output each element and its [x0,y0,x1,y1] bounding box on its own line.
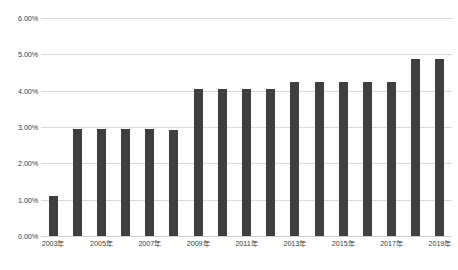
bar [363,82,372,236]
gridline-0.00% [41,236,452,237]
bar [290,82,299,236]
y-tick-label: 3.00% [0,123,38,132]
bar-series [41,18,452,236]
y-tick-label: 0.00% [0,232,38,241]
x-tick-label: 2019年 [429,238,452,248]
x-tick-label: 2011年 [235,238,257,248]
y-tick-label: 4.00% [0,86,38,95]
bar [121,129,130,236]
bar [194,89,203,236]
bar [145,129,154,236]
bar [315,82,324,236]
bar-chart: 0.00%1.00%2.00%3.00%4.00%5.00%6.00% 2003… [0,0,458,270]
x-tick-label: 2009年 [187,238,210,248]
y-tick-label: 1.00% [0,195,38,204]
x-tick-label: 2003年 [42,238,65,248]
x-tick-label: 2005年 [90,238,113,248]
bar [411,59,420,236]
bar [218,89,227,236]
x-tick-label: 2017年 [380,238,403,248]
bar [242,89,251,236]
x-tick-label: 2015年 [332,238,355,248]
x-tick-label: 2013年 [283,238,306,248]
y-tick-label: 6.00% [0,14,38,23]
y-tick-label: 2.00% [0,159,38,168]
x-axis-labels: 2003年2005年2007年2009年2011年2013年2015年2017年… [41,238,452,254]
bar [339,82,348,236]
x-tick-label: 2007年 [138,238,161,248]
bar [387,82,396,236]
bar [73,129,82,236]
bar [97,129,106,236]
bar [169,130,178,236]
bar [435,59,444,236]
bar [266,89,275,236]
bar [49,196,58,236]
y-axis-labels: 0.00%1.00%2.00%3.00%4.00%5.00%6.00% [0,18,38,236]
y-tick-label: 5.00% [0,50,38,59]
